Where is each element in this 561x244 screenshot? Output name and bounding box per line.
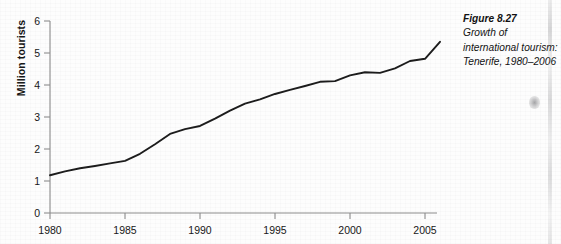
y-tick-label-6: 6 xyxy=(24,15,40,27)
x-tick-label-2000: 2000 xyxy=(328,224,372,236)
figure-page: Million tourists 6 5 4 3 2 1 0 1980 1985… xyxy=(0,0,561,244)
x-tick-label-1985: 1985 xyxy=(103,224,147,236)
x-axis-ticks xyxy=(50,213,425,219)
y-tick-label-4: 4 xyxy=(24,79,40,91)
figure-number: Figure 8.27 xyxy=(463,12,559,26)
scan-smudge-artifact xyxy=(529,96,540,109)
scan-edge-artifact xyxy=(548,0,552,244)
y-axis-ticks xyxy=(44,21,50,213)
x-tick-label-1990: 1990 xyxy=(178,224,222,236)
y-tick-label-0: 0 xyxy=(24,207,40,219)
x-tick-label-1980: 1980 xyxy=(28,224,72,236)
chart-axes xyxy=(50,21,437,213)
x-tick-label-1995: 1995 xyxy=(253,224,297,236)
figure-description: Growth of international tourism: Tenerif… xyxy=(463,26,559,69)
tourism-data-line xyxy=(50,42,440,175)
chart-canvas xyxy=(0,0,450,244)
tourism-line-chart: Million tourists 6 5 4 3 2 1 0 1980 1985… xyxy=(0,0,450,244)
y-tick-label-5: 5 xyxy=(24,47,40,59)
x-tick-label-2005: 2005 xyxy=(403,224,447,236)
figure-caption: Figure 8.27 Growth of international tour… xyxy=(463,12,559,70)
y-tick-label-3: 3 xyxy=(24,111,40,123)
y-tick-label-1: 1 xyxy=(24,175,40,187)
y-tick-label-2: 2 xyxy=(24,143,40,155)
